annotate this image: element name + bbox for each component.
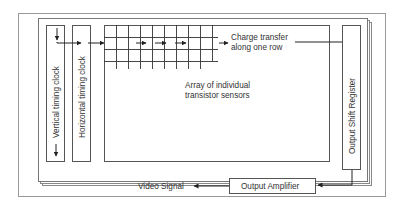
- amplifier-label: Output Amplifier: [241, 182, 300, 191]
- video-signal-label: Video Signal: [138, 182, 184, 191]
- shift-register-label: Output Shift Register: [348, 78, 357, 154]
- array-label-2: transistor sensors: [185, 91, 250, 100]
- vertical-timing-clock: Vertical timing clock: [47, 26, 65, 162]
- output-shift-register: Output Shift Register: [343, 26, 361, 170]
- charge-transfer-label: Charge transfer: [231, 33, 288, 42]
- ccd-diagram: Vertical timing clock Horizontal timing …: [0, 0, 395, 215]
- horizontal-timing-clock: Horizontal timing clock: [73, 26, 91, 162]
- output-amplifier: Output Amplifier: [230, 179, 316, 194]
- horizontal-clock-label: Horizontal timing clock: [78, 55, 87, 138]
- array-label: Array of individual: [185, 81, 250, 90]
- charge-transfer-label-2: along one row: [231, 43, 283, 52]
- vertical-clock-label: Vertical timing clock: [52, 65, 61, 138]
